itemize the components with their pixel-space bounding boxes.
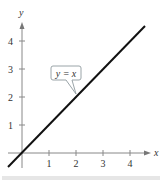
cropped-caption [2, 176, 160, 180]
y-axis-arrow-icon [20, 22, 25, 29]
x-tick-label: 4 [128, 158, 133, 169]
y-tick-label: 3 [8, 64, 13, 75]
x-tick-label: 2 [74, 158, 79, 169]
y-tick-label: 2 [8, 92, 13, 103]
x-tick-label: 1 [47, 158, 52, 169]
x-axis-label: x [153, 147, 159, 158]
y-axis-label: y [18, 7, 24, 18]
line-y-equals-x [8, 26, 145, 167]
callout-label: y = x [55, 68, 77, 79]
x-tick-label: 3 [101, 158, 106, 169]
x-axis-arrow-icon [144, 151, 151, 156]
y-tick-label: 4 [8, 36, 13, 47]
chart: x y 1 2 3 4 1 2 3 4 y = x [0, 0, 165, 180]
y-tick-label: 1 [8, 120, 13, 131]
